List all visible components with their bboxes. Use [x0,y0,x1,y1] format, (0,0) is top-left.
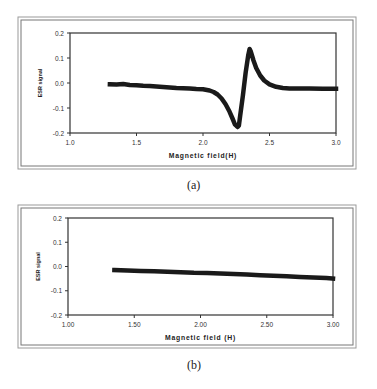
plot-area [68,218,333,315]
x-axis-label: Magnetic field (H) [165,334,236,342]
x-tick-label: 1.50 [128,321,141,328]
y-tick-label: -0.2 [51,312,63,319]
y-tick-label: 0.2 [53,215,62,222]
esr-chart-b: 0.20.10.0-0.1-0.21.001.502.002.503.00Mag… [0,195,377,355]
y-tick-label: -0.2 [53,130,65,137]
x-tick-label: 1.00 [62,321,75,328]
y-tick-label: 0.1 [55,55,64,62]
caption-a: (a) [187,178,200,193]
x-tick-label: 2.0 [198,139,207,146]
chart-panel-b: 0.20.10.0-0.1-0.21.001.502.002.503.00Mag… [0,195,377,355]
caption-b: (b) [187,358,201,373]
x-axis-label: Magnetic field(H) [169,152,237,160]
y-tick-label: -0.1 [51,287,63,294]
x-tick-label: 3.0 [331,139,340,146]
y-tick-label: 0.0 [53,263,62,270]
x-tick-label: 1.5 [132,139,141,146]
x-tick-label: 2.00 [194,321,207,328]
x-tick-label: 2.50 [260,321,273,328]
x-tick-label: 2.5 [265,139,274,146]
y-tick-label: 0.1 [53,239,62,246]
y-tick-label: 0.2 [55,30,64,37]
esr-chart-a: 0.20.10.0-0.1-0.21.01.52.02.53.0Magnetic… [0,0,377,175]
x-tick-label: 1.0 [65,139,74,146]
y-axis-label: ESR signal [37,68,43,97]
y-tick-label: -0.1 [53,105,65,112]
y-tick-label: 0.0 [55,80,64,87]
x-tick-label: 3.00 [327,321,340,328]
y-axis-label: ESR signal [35,252,41,281]
chart-panel-a: 0.20.10.0-0.1-0.21.01.52.02.53.0Magnetic… [0,0,377,175]
